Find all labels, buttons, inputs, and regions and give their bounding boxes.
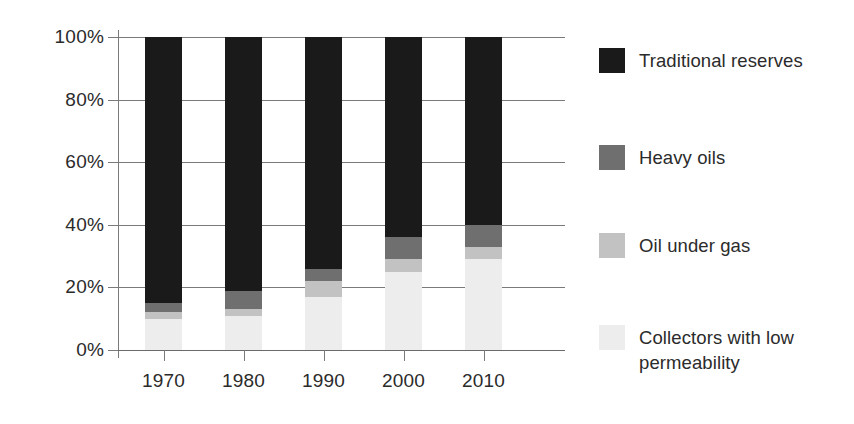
- axis-baseline: [118, 350, 565, 351]
- bar-1980: [225, 37, 262, 350]
- plot-area: [118, 37, 565, 350]
- legend-label: Heavy oils: [639, 145, 725, 170]
- y-axis-tick-mark: [108, 162, 118, 163]
- bar-segment: [305, 269, 342, 282]
- legend-item: Oil under gas: [599, 233, 750, 258]
- x-axis-tick-label: 2000: [364, 370, 444, 392]
- bar-segment: [145, 319, 182, 350]
- bar-segment: [385, 272, 422, 350]
- bar-segment: [225, 309, 262, 315]
- y-axis-tick-mark: [108, 225, 118, 226]
- x-axis-tick-label: 2010: [444, 370, 524, 392]
- x-axis-tick-mark: [244, 350, 245, 361]
- y-axis-tick-label: 100%: [34, 27, 104, 46]
- bar-segment: [305, 37, 342, 269]
- legend-label: Traditional reserves: [639, 48, 803, 73]
- bar-segment: [385, 237, 422, 259]
- bar-segment: [385, 259, 422, 272]
- legend-swatch-icon: [599, 325, 625, 350]
- bar-segment: [225, 291, 262, 310]
- bar-segment: [465, 225, 502, 247]
- bar-segment: [225, 316, 262, 350]
- bar-2010: [465, 37, 502, 350]
- x-axis-tick-mark: [404, 350, 405, 361]
- x-axis-tick-label: 1990: [284, 370, 364, 392]
- legend-swatch-icon: [599, 233, 625, 258]
- y-axis-tick-label: 40%: [34, 215, 104, 234]
- y-axis-tick-label: 0%: [34, 340, 104, 359]
- legend-item: Collectors with low permeability: [599, 325, 794, 375]
- legend-label: Collectors with low permeability: [639, 325, 794, 375]
- legend-item: Heavy oils: [599, 145, 725, 170]
- legend-swatch-icon: [599, 145, 625, 170]
- legend-swatch-icon: [599, 48, 625, 73]
- bar-segment: [385, 37, 422, 237]
- y-axis-tick-mark: [108, 37, 118, 38]
- bar-segment: [305, 297, 342, 350]
- x-axis-tick-mark: [484, 350, 485, 361]
- y-axis-tick-label: 20%: [34, 277, 104, 296]
- x-axis-tick-mark: [324, 350, 325, 361]
- bar-segment: [145, 312, 182, 318]
- bar-2000: [385, 37, 422, 350]
- legend-item: Traditional reserves: [599, 48, 803, 73]
- bar-segment: [145, 303, 182, 312]
- y-axis-tick-mark: [108, 287, 118, 288]
- bar-segment: [145, 37, 182, 303]
- x-axis-tick-label: 1980: [204, 370, 284, 392]
- legend-label: Oil under gas: [639, 233, 750, 258]
- x-axis-tick-mark: [164, 350, 165, 361]
- y-axis-tick-label: 60%: [34, 152, 104, 171]
- x-axis-tick-label: 1970: [124, 370, 204, 392]
- bar-segment: [465, 37, 502, 225]
- bar-segment: [465, 259, 502, 350]
- bar-1970: [145, 37, 182, 350]
- y-axis-tick-mark: [108, 100, 118, 101]
- stacked-bar-chart: 0%20%40%60%80%100% 19701980199020002010 …: [0, 0, 854, 424]
- bar-segment: [225, 37, 262, 291]
- y-axis-tick-mark: [108, 350, 118, 351]
- bar-segment: [305, 281, 342, 297]
- bar-segment: [465, 247, 502, 260]
- y-axis-tick-label: 80%: [34, 90, 104, 109]
- bar-1990: [305, 37, 342, 350]
